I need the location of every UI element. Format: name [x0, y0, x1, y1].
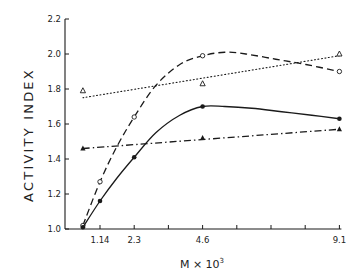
- x-tick-label: 4.6: [196, 235, 210, 245]
- x-tick-label: 9.1: [333, 235, 347, 245]
- data-point-open-triangle: [200, 81, 205, 86]
- y-tick-label: 1.8: [47, 84, 61, 94]
- x-tick-label: 1.14: [91, 235, 110, 245]
- series-line: [83, 56, 340, 98]
- data-point-filled-triangle: [337, 126, 342, 131]
- series-line: [83, 52, 340, 225]
- series-filled-triangle: [80, 126, 342, 150]
- data-point-open-circle: [200, 54, 204, 58]
- y-tick-label: 1.2: [47, 189, 61, 199]
- series-line: [83, 106, 340, 227]
- data-point-filled-circle: [200, 104, 205, 109]
- data-point-open-triangle: [80, 88, 85, 93]
- data-point-filled-circle: [132, 155, 137, 160]
- data-point-filled-triangle: [200, 135, 205, 140]
- x-axis-title-exponent: 3: [220, 257, 224, 265]
- y-tick-label: 1.0: [47, 224, 61, 234]
- axes: 1.01.21.41.61.82.02.21.142.34.69.1: [47, 14, 346, 245]
- data-point-open-circle: [337, 69, 341, 73]
- data-point-open-circle: [98, 180, 102, 184]
- series-open-circle: [81, 52, 342, 228]
- series-open-triangle: [80, 51, 342, 98]
- data-point-open-triangle: [337, 51, 342, 56]
- chart: 1.01.21.41.61.82.02.21.142.34.69.1 ACTIV…: [0, 0, 360, 280]
- x-axis-title: M × 103: [180, 257, 224, 271]
- plot-area: [80, 51, 342, 230]
- x-axis-title-base: M × 10: [180, 258, 220, 271]
- data-point-open-circle: [132, 115, 136, 119]
- y-tick-label: 1.6: [47, 119, 61, 129]
- x-tick-label: 2.3: [127, 235, 141, 245]
- y-tick-label: 1.4: [47, 154, 61, 164]
- y-tick-label: 2.2: [47, 14, 61, 24]
- y-tick-label: 2.0: [47, 49, 61, 59]
- data-point-filled-circle: [98, 199, 103, 204]
- y-axis-title: ACTIVITY INDEX: [21, 68, 36, 202]
- data-point-filled-circle: [337, 116, 342, 121]
- data-point-filled-circle: [81, 225, 86, 230]
- series-filled-circle: [81, 104, 342, 229]
